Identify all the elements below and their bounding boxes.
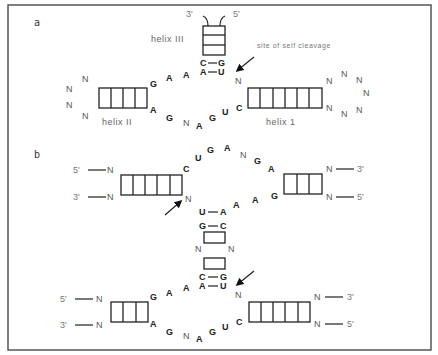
loop-nt: A [233,200,240,210]
cleavage-nucleotide: N [185,194,192,204]
loop-nt: A [183,70,190,80]
strand-end-label: 5' [347,319,354,329]
loop-nt: G [207,145,214,155]
strand-end-label: 3' [60,320,67,330]
loop-nt: N [341,109,348,119]
pair-bottom-right: U [218,67,225,77]
loop-nt: N [240,150,247,160]
loop-nt: A [268,164,275,174]
cleavage-nucleotide: N [235,76,242,86]
strand-end-label: 3' [73,192,80,202]
loop-nt: G [166,113,173,123]
stem-nt: A [199,281,206,291]
cleavage-arrow-icon [238,271,254,284]
cleavage-nucleotide: N [235,290,242,300]
loop-nt: C [236,103,243,113]
loop-nt: C [183,164,190,174]
cleavage-arrow-icon [165,202,180,215]
helix-1-label: helix 1 [266,117,296,127]
loop-nt: A [166,73,173,83]
helix-nt: N [107,192,114,202]
helix-nt: N [314,292,321,302]
helix-3-stem [203,16,225,55]
loop-nt: U [222,322,229,332]
helix-2 [99,88,147,108]
helix-nt: N [326,192,333,202]
figure-frame [8,5,431,350]
loop-nt: A [252,195,259,205]
stem-box-top [204,232,225,243]
loop-nt: N [82,74,89,84]
loop-nt: N [66,100,73,110]
panel-b-label: b [34,149,40,160]
helix-nt: N [326,164,333,174]
helix-3-label: helix III [151,34,184,44]
stem-nt: A [220,207,227,217]
loop-nt: A [150,105,157,115]
stem-nt: N [228,244,235,254]
loop-nt: N [66,84,73,94]
panel-a-label: a [34,17,40,28]
loop-nt: A [224,143,231,153]
loop-nt: C [236,317,243,327]
loop-nt: U [222,107,229,117]
loop-nt: G [209,327,216,337]
strand-end-label: 5' [73,165,80,175]
loop-nt: G [271,191,278,201]
stem-nt: N [195,244,202,254]
helix-nt: N [107,165,114,175]
loop-nt: N [326,103,333,113]
stem-nt: C [220,221,227,231]
loop-nt: N [363,88,370,98]
loop-nt: A [196,121,203,131]
loop-nt: N [183,118,190,128]
helix-3-end-3prime: 3' [186,9,193,19]
helix-nt: N [96,294,103,304]
helix-2-label: helix II [102,117,132,127]
strand-end-label: 3' [357,164,364,174]
strand-end-label: 3' [347,292,354,302]
loop-nt: A [166,288,173,298]
loop-nt: A [196,334,203,344]
loop-nt: N [82,111,89,121]
loop-nt: G [150,79,157,89]
stem-nt: U [220,281,227,291]
helix-b-bottom-right [249,302,310,322]
loop-nt: G [209,113,216,123]
loop-nt: N [183,331,190,341]
helix-1 [248,88,322,108]
helix-3-end-5prime: 5' [233,9,240,19]
helix-nt: N [314,319,321,329]
loop-nt: G [254,156,261,166]
helix-b-top-right [284,174,322,194]
pair-bottom-left: A [200,67,207,77]
stem-box-bottom [204,258,225,269]
loop-nt: A [150,319,157,329]
loop-nt: N [356,75,363,85]
loop-nt: N [341,69,348,79]
helix-b-top-left [121,175,182,195]
loop-nt: G [166,327,173,337]
loop-nt: A [183,283,190,293]
stem-nt: G [199,221,206,231]
helix-nt: N [96,320,103,330]
strand-end-label: 5' [357,192,364,202]
loop-nt: U [195,153,202,163]
helix-b-bottom-left [111,302,148,322]
loop-nt: N [356,105,363,115]
cleavage-arrow-icon [238,57,254,70]
strand-end-label: 5' [60,294,67,304]
stem-nt: U [199,207,206,217]
cleavage-site-label: site of self cleavage [257,42,331,50]
hammerhead-ribozyme-diagram: a 3' 5' helix III C G A U site of self c… [0,0,438,355]
loop-nt: N [326,76,333,86]
loop-nt: G [150,292,157,302]
